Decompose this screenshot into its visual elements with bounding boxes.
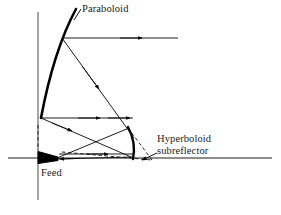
leader-hyperboloid (142, 153, 157, 160)
hyperboloid-subreflector-label: Hyperboloidsubreflector (157, 133, 211, 156)
ray-feed-to-subreflector (57, 128, 129, 158)
ray-vertex-diagonal-arrow (52, 123, 72, 131)
cassegrain-antenna-diagram: Paraboloid Hyperboloidsubreflector Feed (0, 0, 281, 215)
paraboloid-label: Paraboloid (82, 3, 129, 15)
ray-subreflector-to-feed-arrow (60, 158, 80, 159)
feed-horn-shape (38, 152, 58, 164)
hyperboloid-label-line1: Hyperboloid (157, 133, 211, 144)
ray-upper-diagonal-arrow (82, 66, 99, 89)
reflector-surfaces (38, 9, 134, 164)
hyperboloid-label-line2: subreflector (157, 145, 208, 156)
feed-label: Feed (41, 167, 62, 179)
diagram-canvas (0, 0, 281, 215)
paraboloid-main-reflector (41, 9, 76, 118)
